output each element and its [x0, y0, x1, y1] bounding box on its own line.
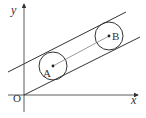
- label-a: A: [43, 67, 51, 79]
- x-axis-label: x: [130, 93, 137, 107]
- lower-tangent-line: [24, 37, 140, 95]
- segment-ab: [53, 36, 109, 66]
- diagram-canvas: A B O x y: [0, 0, 146, 118]
- center-b-dot: [108, 35, 111, 38]
- label-b: B: [112, 30, 119, 42]
- origin-label: O: [13, 92, 21, 104]
- y-axis-label: y: [10, 3, 17, 17]
- center-a-dot: [52, 65, 55, 68]
